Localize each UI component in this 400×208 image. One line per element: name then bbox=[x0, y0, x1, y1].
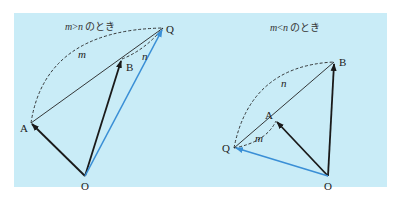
point-label-A: A bbox=[265, 110, 273, 121]
vector-OQ bbox=[85, 30, 162, 176]
ratio-label-n: n bbox=[142, 51, 148, 62]
point-label-Q: Q bbox=[222, 143, 230, 154]
point-label-O: O bbox=[324, 181, 332, 192]
title-var-n: n bbox=[78, 21, 83, 32]
point-label-B: B bbox=[339, 57, 346, 68]
point-label-A: A bbox=[20, 123, 28, 134]
point-label-O: O bbox=[81, 181, 89, 192]
point-label-Q: Q bbox=[166, 24, 174, 35]
vector-OA bbox=[32, 124, 85, 176]
title-suffix: のとき bbox=[85, 21, 115, 32]
line-AQ bbox=[31, 28, 163, 123]
title-var-n: n bbox=[283, 22, 288, 33]
point-label-B: B bbox=[126, 62, 133, 73]
ratio-label-m: m bbox=[255, 133, 263, 144]
line-QB bbox=[234, 62, 334, 148]
title-suffix: のとき bbox=[290, 22, 320, 33]
left-title: m>n のとき bbox=[65, 22, 115, 32]
ratio-label-m: m bbox=[78, 49, 86, 60]
vector-diagrams bbox=[0, 0, 400, 208]
ratio-label-n: n bbox=[281, 78, 287, 89]
vector-OB bbox=[328, 64, 334, 176]
right-title: m<n のとき bbox=[270, 23, 320, 33]
